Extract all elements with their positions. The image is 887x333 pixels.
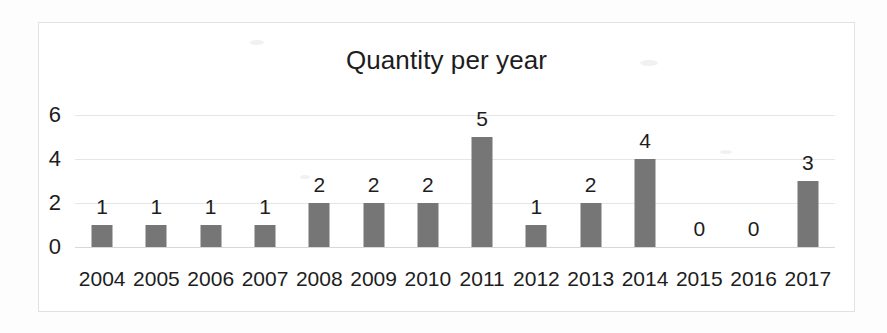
bar-slot: 2 bbox=[292, 115, 346, 247]
x-axis-labels: 2004200520062007200820092010201120122013… bbox=[75, 268, 835, 298]
x-tick-label-2010: 2010 bbox=[404, 268, 451, 289]
bar-value-label: 0 bbox=[748, 218, 760, 239]
bar-value-label: 1 bbox=[259, 196, 271, 217]
bar-slot: 1 bbox=[238, 115, 292, 247]
bar-2008 bbox=[309, 203, 330, 247]
y-tick-label: 6 bbox=[49, 104, 61, 126]
bar-value-label: 0 bbox=[693, 218, 705, 239]
bar-value-label: 3 bbox=[802, 152, 814, 173]
bar-value-label: 1 bbox=[205, 196, 217, 217]
bar-2013 bbox=[580, 203, 601, 247]
bars-series: 11112225124003 bbox=[75, 115, 835, 247]
bar-value-label: 2 bbox=[585, 174, 597, 195]
bar-2010 bbox=[417, 203, 438, 247]
bar-slot: 1 bbox=[129, 115, 183, 247]
bar-value-label: 2 bbox=[422, 174, 434, 195]
bar-2012 bbox=[526, 225, 547, 247]
bar-slot: 0 bbox=[672, 115, 726, 247]
y-tick-label: 4 bbox=[49, 148, 61, 170]
x-tick-label-2014: 2014 bbox=[622, 268, 669, 289]
y-tick-label: 0 bbox=[49, 236, 61, 258]
bar-value-label: 1 bbox=[96, 196, 108, 217]
bar-slot: 0 bbox=[726, 115, 780, 247]
bar-value-label: 5 bbox=[476, 108, 488, 129]
x-tick-label-2015: 2015 bbox=[676, 268, 723, 289]
bar-2011 bbox=[472, 137, 493, 247]
bar-2009 bbox=[363, 203, 384, 247]
x-tick-label-2007: 2007 bbox=[242, 268, 289, 289]
x-tick-label-2004: 2004 bbox=[79, 268, 126, 289]
bar-2006 bbox=[200, 225, 221, 247]
bar-slot: 5 bbox=[455, 115, 509, 247]
x-tick-label-2011: 2011 bbox=[460, 268, 505, 289]
bar-slot: 3 bbox=[781, 115, 835, 247]
bar-value-label: 4 bbox=[639, 130, 651, 151]
bar-slot: 2 bbox=[564, 115, 618, 247]
bar-value-label: 2 bbox=[313, 174, 325, 195]
x-tick-label-2005: 2005 bbox=[133, 268, 180, 289]
x-tick-label-2013: 2013 bbox=[567, 268, 614, 289]
bar-slot: 1 bbox=[75, 115, 129, 247]
bar-2014 bbox=[634, 159, 655, 247]
chart-container: Quantity per year 0246 11112225124003 20… bbox=[0, 0, 887, 333]
y-tick-label: 2 bbox=[49, 192, 61, 214]
bar-slot: 1 bbox=[184, 115, 238, 247]
bar-2007 bbox=[254, 225, 275, 247]
bar-slot: 2 bbox=[401, 115, 455, 247]
gridline-0 bbox=[75, 247, 835, 248]
bar-value-label: 1 bbox=[151, 196, 163, 217]
bar-value-label: 1 bbox=[531, 196, 543, 217]
x-tick-label-2009: 2009 bbox=[350, 268, 397, 289]
x-tick-label-2008: 2008 bbox=[296, 268, 343, 289]
bar-value-label: 2 bbox=[368, 174, 380, 195]
bar-2004 bbox=[92, 225, 113, 247]
x-tick-label-2006: 2006 bbox=[187, 268, 234, 289]
bar-2005 bbox=[146, 225, 167, 247]
x-tick-label-2012: 2012 bbox=[513, 268, 560, 289]
x-tick-label-2017: 2017 bbox=[784, 268, 831, 289]
bar-slot: 4 bbox=[618, 115, 672, 247]
bar-slot: 2 bbox=[346, 115, 400, 247]
chart-title: Quantity per year bbox=[38, 45, 855, 76]
bar-slot: 1 bbox=[509, 115, 563, 247]
bar-2017 bbox=[797, 181, 818, 247]
x-tick-label-2016: 2016 bbox=[730, 268, 777, 289]
plot-area: 0246 11112225124003 bbox=[75, 115, 835, 247]
